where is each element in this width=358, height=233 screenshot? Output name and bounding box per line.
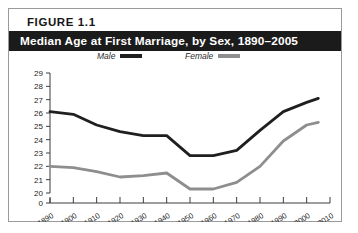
legend-item-female: Female [185,51,240,61]
figure-title: Median Age at First Marriage, by Sex, 18… [20,34,298,48]
y-axis-tick-label: 0 [39,199,44,208]
x-axis-tick-label: 2000 [293,211,312,222]
x-axis-tick-label: 1930 [129,211,148,222]
chart-legend: Male Female [9,51,343,71]
legend-swatch-male [120,54,142,58]
y-axis-tick-label: 22 [34,162,43,171]
chart-plot-area: Male Female 2928272625242322212001890190… [9,51,343,222]
x-axis-tick-label: 1990 [269,211,288,222]
y-axis-tick-label: 26 [34,109,43,118]
legend-label-female: Female [185,51,213,61]
x-axis-tick-label: 1900 [59,211,78,222]
series-line-female [50,122,318,189]
figure-card: FIGURE 1.1 Median Age at First Marriage,… [8,8,342,222]
figure-label: FIGURE 1.1 [18,12,334,32]
legend-label-male: Male [97,51,115,61]
x-axis-tick-label: 1950 [176,211,195,222]
x-axis-tick-label: 1980 [246,211,265,222]
legend-item-male: Male [97,51,142,61]
line-chart: 2928272625242322212001890190019101920193… [9,51,343,222]
x-axis-tick-label: 1890 [36,211,55,222]
y-axis-tick-label: 21 [34,176,43,185]
y-axis-tick-label: 27 [34,96,43,105]
figure-title-bar: Median Age at First Marriage, by Sex, 18… [9,31,341,51]
x-axis-tick-label: 1970 [223,211,242,222]
y-axis-tick-label: 24 [34,136,43,145]
x-axis-tick-label: 1940 [153,211,172,222]
x-axis-tick-label: 1910 [83,211,102,222]
x-axis-tick-label: 1960 [199,211,218,222]
y-axis-tick-label: 20 [34,189,43,198]
x-axis-tick-label: 2010 [316,211,335,222]
legend-swatch-female [218,54,240,58]
y-axis-tick-label: 25 [34,122,43,131]
x-axis-tick-label: 1920 [106,211,125,222]
y-axis-tick-label: 23 [34,149,43,158]
y-axis-tick-label: 28 [34,82,43,91]
